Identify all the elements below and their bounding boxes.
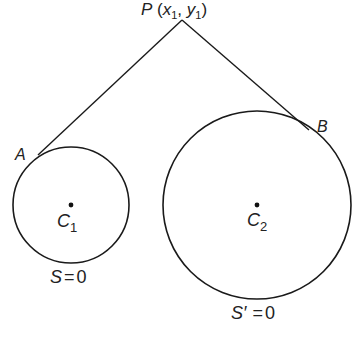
tangent-diagram: P (x1, y1) A B C1 C2 S=0 S′=0	[0, 0, 352, 341]
equation-s-prime: S′=0	[231, 303, 275, 323]
point-a-label: A	[14, 146, 26, 163]
center-c2-dot	[255, 203, 260, 208]
diagram-canvas: P (x1, y1) A B C1 C2 S=0 S′=0	[0, 0, 352, 341]
equation-s: S=0	[50, 267, 87, 287]
center-c1-dot	[69, 203, 74, 208]
tangent-line-pb	[182, 20, 309, 130]
point-p-label: P (x1, y1)	[141, 0, 207, 21]
tangent-line-pa	[38, 20, 182, 155]
center-c1-label: C1	[57, 211, 77, 235]
point-b-label: B	[317, 118, 328, 135]
center-c2-label: C2	[247, 210, 267, 234]
